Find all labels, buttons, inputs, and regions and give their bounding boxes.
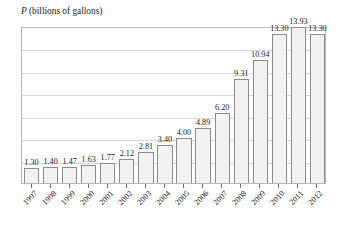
x-axis-tick <box>31 184 32 188</box>
bar-slot: 13.30 <box>272 28 287 183</box>
bar-slot: 3.40 <box>157 28 172 183</box>
x-axis-tick <box>183 184 184 188</box>
bar-value-label: 6.20 <box>215 103 229 112</box>
bar[interactable] <box>253 60 268 183</box>
bar-slot: 1.77 <box>100 28 115 183</box>
bar[interactable] <box>157 145 172 183</box>
bar-value-label: 4.89 <box>196 118 210 127</box>
bar[interactable] <box>176 138 191 183</box>
x-axis-tick <box>278 184 279 188</box>
bar-value-label: 13.30 <box>308 24 326 33</box>
bar-value-label: 2.81 <box>139 142 153 151</box>
bar-slot: 1.47 <box>62 28 77 183</box>
x-axis-tick <box>259 184 260 188</box>
x-axis-tick <box>202 184 203 188</box>
bar-slot: 13.93 <box>291 28 306 183</box>
x-axis-tick <box>145 184 146 188</box>
bar[interactable] <box>62 167 77 183</box>
x-axis-tick <box>240 184 241 188</box>
bar-value-label: 4.00 <box>177 128 191 137</box>
bar-slot: 2.12 <box>119 28 134 183</box>
bar[interactable] <box>100 163 115 183</box>
bar-slot: 4.89 <box>195 28 210 183</box>
x-axis-tick <box>50 184 51 188</box>
x-axis-tick <box>316 184 317 188</box>
bar-value-label: 1.40 <box>43 157 57 166</box>
bar-value-label: 13.30 <box>270 24 288 33</box>
bar[interactable] <box>310 34 325 183</box>
x-axis-tick <box>88 184 89 188</box>
bar-chart: P (billions of gallons) 1.301.401.471.63… <box>0 0 347 231</box>
bar-value-label: 3.40 <box>158 135 172 144</box>
x-axis-tick <box>297 184 298 188</box>
bars-layer: 1.301.401.471.631.772.122.813.404.004.89… <box>22 28 325 183</box>
bar-slot: 1.40 <box>43 28 58 183</box>
y-axis-title: P (billions of gallons) <box>21 6 102 17</box>
bar-value-label: 1.47 <box>62 157 76 166</box>
bar[interactable] <box>195 128 210 183</box>
bar[interactable] <box>119 159 134 183</box>
bar-slot: 1.63 <box>81 28 96 183</box>
bar-slot: 13.30 <box>310 28 325 183</box>
bar-slot: 2.81 <box>138 28 153 183</box>
plot-area: 1.301.401.471.631.772.122.813.404.004.89… <box>21 27 326 184</box>
x-axis-tick <box>69 184 70 188</box>
bar[interactable] <box>81 165 96 183</box>
bar-value-label: 1.30 <box>24 158 38 167</box>
bar-slot: 1.30 <box>24 28 39 183</box>
x-axis-tick <box>107 184 108 188</box>
bar-slot: 9.31 <box>234 28 249 183</box>
x-axis-labels: 1997199819992000200120022003200420052006… <box>21 189 326 231</box>
x-axis-tick <box>126 184 127 188</box>
y-axis-units: (billions of gallons) <box>27 6 103 16</box>
bar[interactable] <box>234 79 249 183</box>
bar-value-label: 13.93 <box>289 17 307 26</box>
x-axis-tick <box>164 184 165 188</box>
bar-value-label: 2.12 <box>120 149 134 158</box>
bar-value-label: 10.94 <box>251 50 269 59</box>
bar-value-label: 1.63 <box>82 155 96 164</box>
bar-slot: 4.00 <box>176 28 191 183</box>
bar-value-label: 9.31 <box>234 69 248 78</box>
bar-value-label: 1.77 <box>101 153 115 162</box>
bar[interactable] <box>272 34 287 183</box>
bar-slot: 10.94 <box>253 28 268 183</box>
bar[interactable] <box>24 168 39 183</box>
bar[interactable] <box>215 113 230 183</box>
bar[interactable] <box>43 167 58 183</box>
bar[interactable] <box>138 152 153 184</box>
bar-slot: 6.20 <box>215 28 230 183</box>
x-axis-tick <box>221 184 222 188</box>
bar[interactable] <box>291 27 306 183</box>
